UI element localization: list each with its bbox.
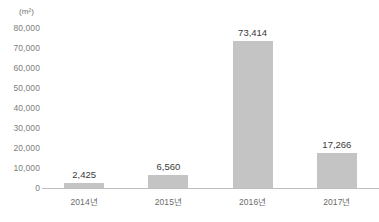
x-axis-category-label: 2016년 [239,195,266,207]
bar-value-label: 2,425 [72,169,96,180]
x-axis-line [42,188,379,189]
y-axis-tick-label: 60,000 [2,63,40,73]
bar-value-label: 73,414 [238,27,267,38]
y-axis-tick-label: 10,000 [2,163,40,173]
plot-area: 2,4252014년6,5602015년73,4142016년17,266201… [42,0,379,222]
y-axis-tick-label: 80,000 [2,23,40,33]
y-axis-tick-label: 30,000 [2,123,40,133]
y-axis-tick-label: 20,000 [2,143,40,153]
bar-value-label: 17,266 [322,139,351,150]
y-axis-tick-label: 0 [2,183,40,193]
x-axis-category-label: 2015년 [155,195,182,207]
x-axis-category-label: 2014년 [70,195,97,207]
bar [148,175,188,188]
y-axis-tick-label: 40,000 [2,103,40,113]
y-axis-tick-label: 70,000 [2,43,40,53]
bar [233,41,273,188]
y-axis: 010,00020,00030,00040,00050,00060,00070,… [0,0,40,222]
bar [64,183,104,188]
bar-chart: (m²) 010,00020,00030,00040,00050,00060,0… [0,0,379,222]
bar [317,153,357,188]
y-axis-tick-label: 50,000 [2,83,40,93]
bar-value-label: 6,560 [156,161,180,172]
x-axis-category-label: 2017년 [323,195,350,207]
